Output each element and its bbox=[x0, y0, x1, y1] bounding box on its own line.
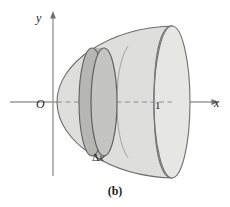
figure-caption: (b) bbox=[0, 184, 230, 199]
delta-x-variable: x bbox=[99, 151, 104, 163]
x-tick-label-one: 1 bbox=[155, 100, 161, 111]
x-axis-label: x bbox=[214, 97, 219, 109]
y-axis-arrowhead bbox=[50, 11, 56, 19]
solid-of-revolution-illustration bbox=[0, 0, 230, 207]
y-axis-label: y bbox=[36, 12, 41, 24]
disk-front-face-ellipse bbox=[91, 48, 117, 156]
figure-container: y x O 1 Δx (b) bbox=[0, 0, 230, 207]
representative-disk bbox=[79, 48, 117, 156]
delta-x-label: Δx bbox=[92, 152, 104, 163]
origin-label: O bbox=[36, 98, 45, 110]
